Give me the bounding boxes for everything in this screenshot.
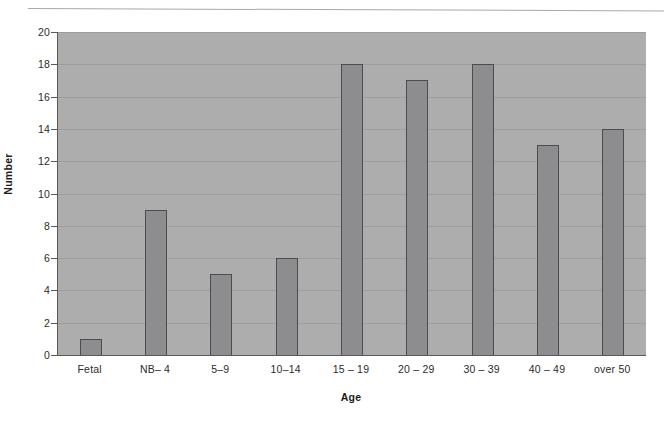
bar-slot [58, 32, 123, 355]
bar [276, 258, 298, 355]
bar-slot [581, 32, 646, 355]
bar-slot [189, 32, 254, 355]
y-axis-tick-mark [51, 64, 57, 65]
y-axis-tick-mark [51, 32, 57, 33]
bar [210, 274, 232, 355]
bar-chart-figure: Number 02468101214161820 FetalNB– 45–910… [0, 0, 672, 427]
y-axis-tick-mark [51, 129, 57, 130]
y-axis-tick-mark [51, 323, 57, 324]
x-axis-title: Age [57, 391, 645, 403]
bar-slot [450, 32, 515, 355]
y-axis-tick-label: 18 [38, 58, 50, 70]
bar-series [58, 32, 646, 355]
page-rule-divider [28, 8, 664, 11]
y-axis-tick-label: 6 [44, 252, 50, 264]
y-axis-tick-label: 0 [44, 349, 50, 361]
x-axis-tick-labels: FetalNB– 45–910–1415 – 1920 – 2930 – 394… [57, 363, 645, 375]
y-axis-title: Number [2, 144, 14, 204]
y-axis-tick-label: 14 [38, 123, 50, 135]
x-axis-tick-label: 40 – 49 [514, 363, 579, 375]
bar [602, 129, 624, 355]
y-axis-tick-label: 12 [38, 155, 50, 167]
bar-slot [123, 32, 188, 355]
bar-slot [515, 32, 580, 355]
y-axis-tick-mark [51, 226, 57, 227]
bar-slot [385, 32, 450, 355]
x-axis-tick-label: 30 – 39 [449, 363, 514, 375]
y-axis-tick-label: 8 [44, 220, 50, 232]
bar [537, 145, 559, 355]
y-axis-tick-mark [51, 194, 57, 195]
y-axis-tick-label: 16 [38, 91, 50, 103]
y-axis-tick-mark [51, 258, 57, 259]
bar [80, 339, 102, 355]
y-axis-tick-mark [51, 97, 57, 98]
y-axis-tick-labels: 02468101214161820 [18, 32, 50, 355]
bar [145, 210, 167, 355]
x-axis-tick-label: over 50 [580, 363, 645, 375]
y-axis-tick-mark [51, 355, 57, 356]
plot-area [57, 32, 646, 356]
x-axis-tick-label: 5–9 [188, 363, 253, 375]
bar [472, 64, 494, 355]
y-axis-tick-label: 2 [44, 317, 50, 329]
bar-slot [254, 32, 319, 355]
x-axis-tick-label: 15 – 19 [318, 363, 383, 375]
y-axis-tick-label: 20 [38, 26, 50, 38]
x-axis-tick-label: Fetal [57, 363, 122, 375]
y-axis-tick-label: 4 [44, 284, 50, 296]
x-axis-tick-label: 20 – 29 [384, 363, 449, 375]
x-axis-tick-label: NB– 4 [122, 363, 187, 375]
y-axis-tick-label: 10 [38, 188, 50, 200]
y-axis-tick-mark [51, 161, 57, 162]
x-axis-tick-label: 10–14 [253, 363, 318, 375]
bar [341, 64, 363, 355]
bar-slot [319, 32, 384, 355]
bar [406, 80, 428, 355]
y-axis-tick-mark [51, 290, 57, 291]
